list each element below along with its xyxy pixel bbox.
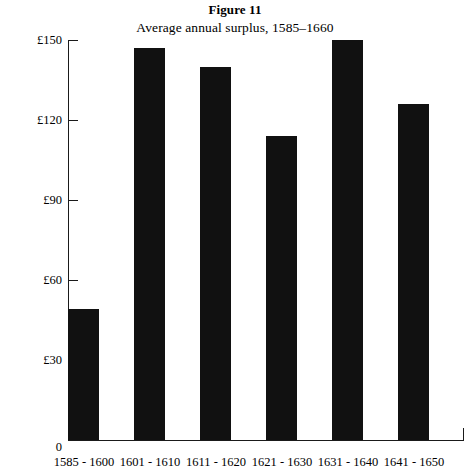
x-axis-label-1641-1650: 1641 - 1650	[375, 456, 453, 469]
bar-chart-plot-area: £150 £120 £90 £60 £30 0 1585 - 1600 1601…	[0, 0, 470, 476]
x-axis-line	[68, 440, 464, 441]
y-axis-label-150: £150	[14, 34, 62, 46]
y-axis-tick-150	[69, 40, 78, 41]
bar-1611-1620	[200, 67, 231, 440]
bar-1601-1610	[134, 48, 165, 440]
y-axis-label-90: £90	[14, 194, 62, 206]
y-axis-label-120: £120	[14, 114, 62, 126]
y-axis-tick-90	[69, 200, 78, 201]
figure-container: Figure 11 Average annual surplus, 1585–1…	[0, 0, 470, 476]
y-axis-tick-60	[69, 280, 78, 281]
y-axis-label-30: £30	[14, 354, 62, 366]
bar-1585-1600	[68, 309, 99, 440]
x-axis-tick-end	[463, 428, 464, 440]
y-axis-label-0: 0	[14, 441, 62, 453]
bar-1621-1630	[266, 136, 297, 440]
bar-1641-1650	[398, 104, 429, 440]
bar-1631-1640	[332, 40, 363, 440]
y-axis-label-60: £60	[14, 274, 62, 286]
y-axis-tick-120	[69, 120, 78, 121]
